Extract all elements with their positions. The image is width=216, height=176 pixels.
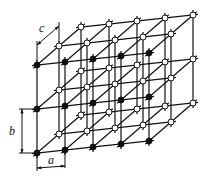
lattice-node-open	[134, 18, 140, 24]
lattice-node-filled	[62, 147, 68, 153]
lattice-node-open	[140, 34, 146, 40]
lattice-node-open	[162, 59, 168, 65]
lattice-node-open	[84, 40, 90, 46]
lattice-node-filled	[62, 103, 68, 109]
label-b-text: b	[9, 124, 15, 138]
lattice-node-filled	[34, 62, 40, 68]
lattice-node-open	[140, 78, 146, 84]
lattice-node-filled	[146, 94, 152, 100]
lattice-node-filled	[118, 97, 124, 103]
lattice-node-filled	[90, 56, 96, 62]
lattice-node-filled	[118, 53, 124, 59]
lattice-node-open	[134, 62, 140, 68]
lattice-node-open	[112, 37, 118, 43]
lattice-node-filled	[62, 59, 68, 65]
lattice-node-open	[78, 112, 84, 118]
label-a-text: a	[48, 153, 54, 167]
lattice-svg: abc	[0, 0, 216, 176]
lattice-node-open	[78, 24, 84, 30]
lattice-node-filled	[34, 150, 40, 156]
lattice-node-open	[190, 12, 196, 18]
lattice-node-open	[106, 65, 112, 71]
lattice-node-open	[56, 43, 62, 49]
lattice-node-filled	[90, 100, 96, 106]
lattice-node-filled	[146, 50, 152, 56]
lattice-node-open	[84, 128, 90, 134]
lattice-node-open	[78, 68, 84, 74]
lattice-node-filled	[34, 106, 40, 112]
lattice-node-open	[168, 75, 174, 81]
lattice-node-open	[56, 87, 62, 93]
lattice-node-open	[168, 31, 174, 37]
lattice-node-open	[106, 21, 112, 27]
lattice-node-open	[190, 100, 196, 106]
lattice-node-open	[112, 125, 118, 131]
lattice-node-open	[140, 122, 146, 128]
lattice-node-open	[112, 81, 118, 87]
lattice-node-open	[162, 15, 168, 21]
lattice-node-open	[106, 109, 112, 115]
lattice-node-open	[84, 84, 90, 90]
lattice-node-open	[162, 103, 168, 109]
lattice-diagram: abc a b c	[0, 0, 216, 176]
lattice-node-open	[190, 56, 196, 62]
lattice-node-open	[134, 106, 140, 112]
lattice-node-open	[56, 131, 62, 137]
lattice-node-filled	[146, 138, 152, 144]
lattice-node-filled	[118, 141, 124, 147]
lattice-node-filled	[90, 144, 96, 150]
lattice-node-open	[168, 119, 174, 125]
label-c-text: c	[39, 21, 45, 35]
